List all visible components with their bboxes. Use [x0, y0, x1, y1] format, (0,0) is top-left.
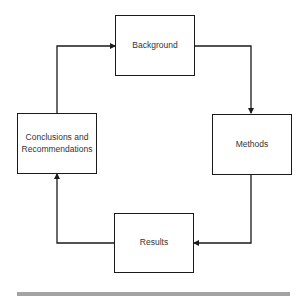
node-conclusions: Conclusions and Recommendations — [17, 113, 97, 174]
node-background-label: Background — [132, 40, 177, 51]
edge-conclusions-to-background — [57, 46, 115, 113]
node-methods: Methods — [212, 114, 292, 175]
node-conclusions-label: Conclusions and Recommendations — [21, 132, 93, 155]
edge-background-to-methods — [194, 46, 251, 113]
node-methods-label: Methods — [236, 139, 269, 150]
footer-divider-bar — [17, 292, 290, 296]
node-background: Background — [115, 15, 195, 76]
diagram-canvas: Background Methods Results Conclusions a… — [0, 0, 305, 299]
node-results-label: Results — [140, 237, 168, 248]
edge-results-to-conclusions — [57, 174, 114, 243]
edge-methods-to-results — [194, 174, 251, 243]
node-results: Results — [114, 213, 194, 273]
